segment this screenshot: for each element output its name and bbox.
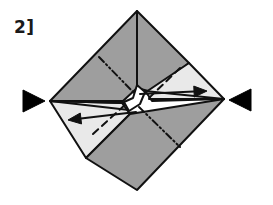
top-left-dark-panel — [50, 11, 137, 101]
left-pointer-marker — [23, 90, 45, 112]
fold-diagram: Origami fold step 2 — [0, 0, 273, 205]
origami-figure: 2] Origami fold step 2 — [0, 0, 273, 205]
right-pointer-marker — [229, 89, 251, 111]
